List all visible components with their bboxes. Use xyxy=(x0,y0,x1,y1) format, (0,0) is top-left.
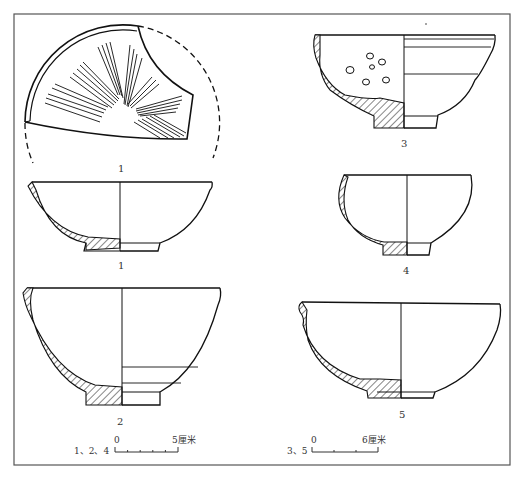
bowl-2-section xyxy=(23,288,221,405)
restoration-outline-left xyxy=(25,123,33,163)
figure-label-4: 4 xyxy=(403,265,409,276)
scale-bar-2: 3、5 0 6厘米 xyxy=(287,434,386,456)
figure-label-1-top: 1 xyxy=(118,163,124,174)
bowl-1-top-view xyxy=(25,25,220,163)
scale-bar-1-end: 5厘米 xyxy=(172,434,196,445)
bowl-3-section xyxy=(314,35,495,128)
figure-label-5: 5 xyxy=(399,409,405,420)
stray-dot xyxy=(425,23,427,25)
scale-bar-2-applies: 3、5 xyxy=(287,446,308,456)
figure-label-1: 1 xyxy=(118,260,124,271)
figure-plate: 1 1 2 xyxy=(0,0,522,480)
interior-dots xyxy=(346,53,390,85)
scale-bar-1-applies: 1、2、4 xyxy=(74,446,109,456)
scale-bar-2-zero: 0 xyxy=(311,435,317,445)
bowl-1-section xyxy=(28,182,212,251)
scale-bar-1: 1、2、4 0 5厘米 xyxy=(74,434,196,456)
figure-label-2: 2 xyxy=(117,416,123,427)
bowl-5-section xyxy=(299,302,501,398)
figure-label-3: 3 xyxy=(401,138,407,149)
scale-bar-1-zero: 0 xyxy=(114,435,120,445)
scale-bar-2-end: 6厘米 xyxy=(362,434,386,445)
bowl-4-section xyxy=(339,175,472,255)
